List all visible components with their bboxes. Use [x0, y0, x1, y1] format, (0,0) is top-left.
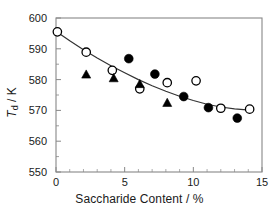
axis-ticks [56, 18, 262, 172]
data-point-open-circle [108, 66, 116, 74]
y-tick-label: 590 [0, 43, 47, 54]
data-point-open-circle [192, 77, 200, 85]
data-point-filled-circle [233, 114, 242, 123]
x-tick-label: 10 [187, 177, 199, 188]
axes-frame [56, 18, 262, 172]
x-tick-label: 15 [256, 177, 268, 188]
y-tick-label: 550 [0, 167, 47, 178]
data-point-open-circle [217, 104, 225, 112]
data-point-open-circle [163, 78, 171, 86]
data-point-filled-triangle [163, 98, 172, 106]
y-tick-label: 560 [0, 136, 47, 147]
y-axis-title-subscript: d [10, 105, 20, 110]
x-tick-label: 0 [53, 177, 59, 188]
y-tick-label: 600 [0, 13, 47, 24]
data-point-filled-circle [150, 70, 159, 79]
data-point-filled-triangle [82, 70, 91, 78]
data-point-filled-triangle [135, 79, 144, 87]
data-point-open-circle [82, 48, 90, 56]
x-tick-label: 5 [122, 177, 128, 188]
data-point-open-circle [53, 28, 61, 36]
y-axis-title-unit: / K [5, 87, 19, 105]
y-axis-title: Td / K [5, 73, 20, 133]
data-markers [53, 28, 254, 123]
x-axis-title: Saccharide Content / % [0, 192, 279, 206]
data-point-filled-circle [124, 54, 133, 63]
data-point-open-circle [245, 105, 253, 113]
y-axis-title-symbol: T [5, 110, 19, 117]
data-point-filled-circle [204, 103, 213, 112]
chart-figure: 550560570580590600 051015 Saccharide Con… [0, 0, 279, 213]
data-point-filled-circle [179, 92, 188, 101]
